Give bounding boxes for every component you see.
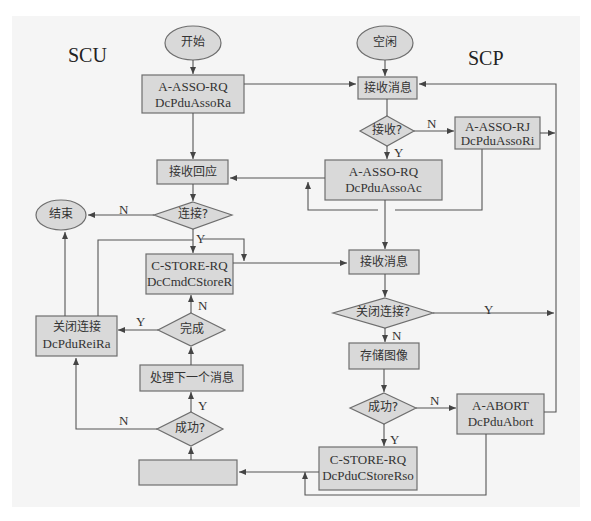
scu-close-connection-line2: DcPduReiRa [36,336,117,351]
scu-done-decision-label: 完成 [158,322,225,337]
scp-accept-decision-label: 接收? [360,123,414,138]
scu-start-label: 开始 [165,35,221,50]
scu-success-decision-label: 成功? [157,421,223,436]
scp-store-response-line2: DcPduCStoreRso [319,468,417,483]
lane-title-scu: SCU [68,48,107,63]
scp-receive-message-1-label: 接收消息 [358,81,417,96]
scp-receive-message-2-label: 接收消息 [349,255,419,270]
scp-store-response-line1: C-STORE-RQ [319,452,417,467]
scu-store-request-line2: DcCmdCStoreR [146,274,233,289]
edge-label-done-yes: Y [136,314,145,329]
scp-abort-line1: A-ABORT [457,398,544,413]
edge-label-scp-success-yes: Y [390,432,399,447]
scp-store-image-label: 存储图像 [349,349,419,364]
edge-label-close-yes: Y [484,302,493,317]
flowchart-graphics [0,0,591,521]
scu-close-connection-line1: 关闭连接 [36,320,117,335]
edge-label-connected-no: N [119,202,128,217]
scp-abort-line2: DcPduAbort [457,414,544,429]
edge-label-accept-yes: Y [394,145,403,160]
edge-label-done-no: N [198,298,207,313]
scp-assoc-accept-line2: DcPduAssoAc [325,180,442,195]
flowchart-canvas: SCU SCP 开始 空闲 A-ASSO-RQ DcPduAssoRa 接收消息… [0,0,591,521]
scu-process-next-label: 处理下一个消息 [140,371,243,386]
scu-empty-node [139,460,237,485]
scp-assoc-reject-line1: A-ASSO-RJ [455,119,540,134]
scp-success-decision-label: 成功? [350,400,416,415]
scu-receive-response-label: 接收回应 [157,165,228,180]
scp-assoc-accept-line1: A-ASSO-RQ [325,164,442,179]
edge-label-connected-yes: Y [196,231,205,246]
scu-connected-decision-label: 连接? [154,207,232,222]
scp-idle-label: 空闲 [357,35,413,50]
scp-assoc-reject-line2: DcPduAssoRi [455,133,540,148]
edge-label-scu-success-yes: Y [198,398,207,413]
edge-label-close-no: N [392,328,401,343]
edge-label-accept-no: N [427,116,436,131]
edge-label-scp-success-no: N [430,393,439,408]
scu-assoc-request-line2: DcPduAssoRa [142,95,244,110]
scu-end-label: 结束 [36,207,86,222]
lane-title-scp: SCP [468,51,504,66]
edge-label-scu-success-no: N [119,413,128,428]
scp-close-decision-label: 关闭连接? [333,305,433,320]
scu-assoc-request-line1: A-ASSO-RQ [142,79,244,94]
scu-store-request-line1: C-STORE-RQ [146,258,233,273]
